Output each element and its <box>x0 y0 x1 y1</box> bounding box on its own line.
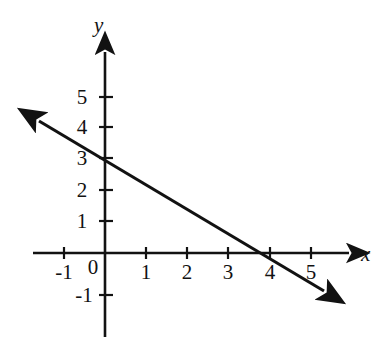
origin-tick-label: 0 <box>84 257 102 278</box>
y-tick-label-5: 5 <box>73 87 91 108</box>
x-tick-label-4: 4 <box>261 262 279 283</box>
y-axis-label: y <box>94 15 103 36</box>
y-tick-label-3: 3 <box>73 148 91 169</box>
coordinate-plane-svg <box>0 0 391 357</box>
x-tick-label-5: 5 <box>302 262 320 283</box>
y-tick-label-2: 2 <box>73 180 91 201</box>
x-tick-label--1: -1 <box>48 262 80 283</box>
y-tick-label--1: -1 <box>68 285 100 306</box>
y-tick-label-1: 1 <box>73 211 91 232</box>
x-axis-label: x <box>361 244 370 265</box>
x-tick-label-1: 1 <box>137 262 155 283</box>
x-tick-label-3: 3 <box>219 262 237 283</box>
y-tick-label-4: 4 <box>73 117 91 138</box>
x-tick-label-2: 2 <box>178 262 196 283</box>
graph-figure: y x 0 -1 1 2 3 4 5 5 4 3 2 1 -1 <box>0 0 391 357</box>
